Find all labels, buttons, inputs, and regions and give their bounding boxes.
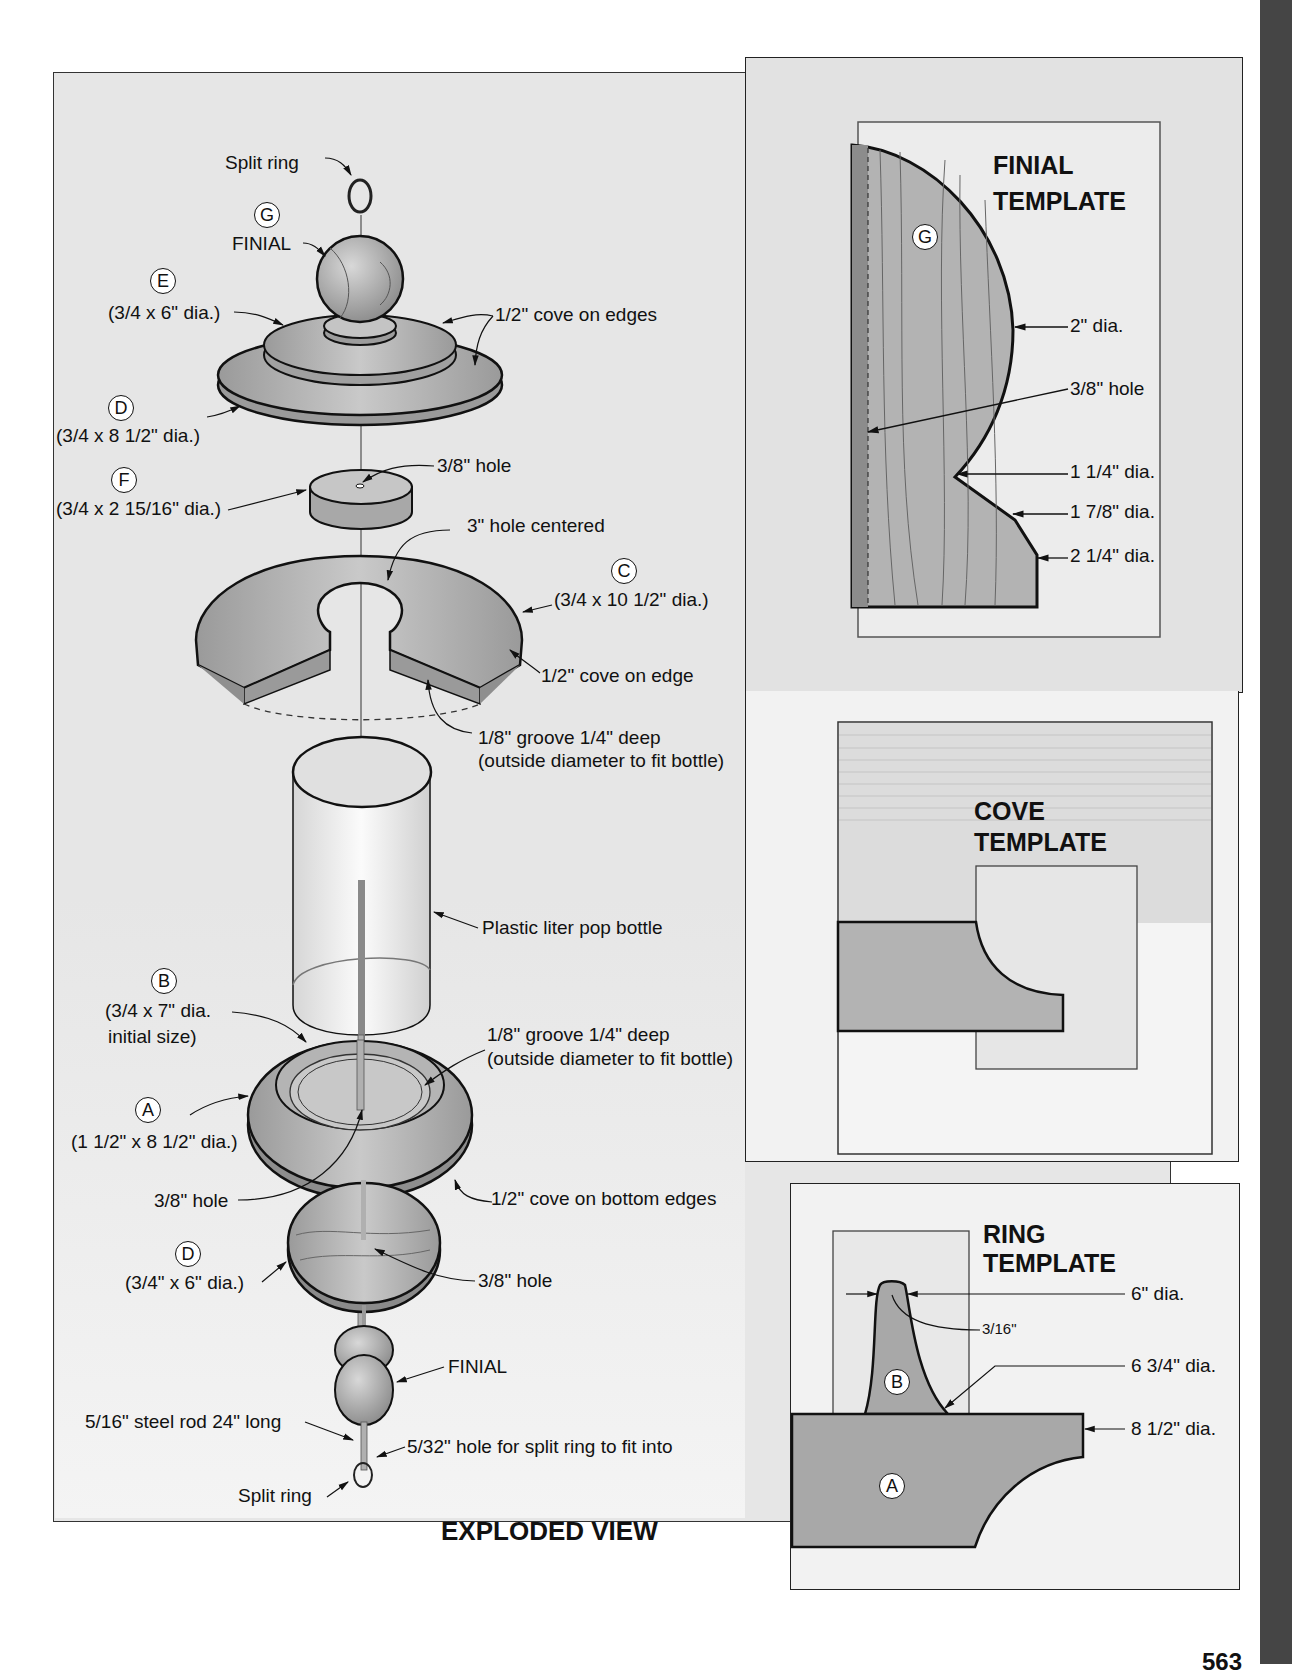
finial-dim-2-dia: 2" dia.: [1070, 315, 1123, 337]
label-bottle: Plastic liter pop bottle: [482, 917, 663, 939]
label-split-ring-top: Split ring: [225, 152, 299, 174]
exploded-view-title: EXPLODED VIEW: [441, 1517, 658, 1546]
ring-dim-6-3-4: 6 3/4" dia.: [1131, 1355, 1216, 1377]
label-hole-f: 3/8" hole: [437, 455, 511, 477]
label-part-a-dims: (1 1/2" x 8 1/2" dia.): [71, 1131, 238, 1153]
label-part-b-dims-1: (3/4 x 7" dia.: [105, 1000, 211, 1022]
page-number: 563: [1202, 1648, 1242, 1674]
label-part-b-dims-2: initial size): [108, 1026, 197, 1048]
finial-dim-hole: 3/8" hole: [1070, 378, 1144, 400]
finial-dim-1-7-8: 1 7/8" dia.: [1070, 501, 1155, 523]
label-groove-top-2: (outside diameter to fit bottle): [478, 750, 724, 772]
ring-part-a-badge: A: [879, 1473, 905, 1499]
label-part-e-dims: (3/4 x 6" dia.): [108, 302, 220, 324]
finial-template-part-badge: G: [912, 224, 938, 250]
finial-dim-2-1-4: 2 1/4" dia.: [1070, 545, 1155, 567]
label-finial-top: FINIAL: [232, 233, 291, 255]
ring-dim-3-16: 3/16": [982, 1320, 1017, 1337]
part-d-top-badge: D: [108, 395, 134, 421]
label-part-c-dims: (3/4 x 10 1/2" dia.): [554, 589, 709, 611]
label-cove-on-edge: 1/2" cove on edge: [541, 665, 694, 687]
cove-template-title-1: COVE: [974, 798, 1045, 826]
label-part-d-bottom-dims: (3/4" x 6" dia.): [125, 1272, 244, 1294]
part-c-badge: C: [611, 558, 637, 584]
cove-template-title-2: TEMPLATE: [974, 829, 1107, 857]
finial-dim-1-1-4: 1 1/4" dia.: [1070, 461, 1155, 483]
label-groove-bottom-2: (outside diameter to fit bottle): [487, 1048, 733, 1070]
ring-dim-6-dia: 6" dia.: [1131, 1283, 1184, 1305]
label-split-ring-bottom: Split ring: [238, 1485, 312, 1507]
part-g-badge: G: [254, 202, 280, 228]
part-a-badge: A: [135, 1097, 161, 1123]
part-f-badge: F: [111, 467, 137, 493]
label-groove-bottom-1: 1/8" groove 1/4" deep: [487, 1024, 670, 1046]
label-groove-top-1: 1/8" groove 1/4" deep: [478, 727, 661, 749]
label-cove-bottom-edges: 1/2" cove on bottom edges: [491, 1188, 716, 1210]
ring-template-title-2: TEMPLATE: [983, 1250, 1116, 1278]
part-b-badge: B: [151, 968, 177, 994]
ring-part-b-badge: B: [884, 1369, 910, 1395]
finial-template-title-1: FINIAL: [993, 152, 1074, 180]
label-part-f-dims: (3/4 x 2 15/16" dia.): [56, 498, 221, 520]
label-finial-bottom: FINIAL: [448, 1356, 507, 1378]
part-e-badge: E: [150, 268, 176, 294]
label-steel-rod: 5/16" steel rod 24" long: [85, 1411, 281, 1433]
label-split-ring-hole: 5/32" hole for split ring to fit into: [407, 1436, 673, 1458]
ring-template-title-1: RING: [983, 1221, 1046, 1249]
finial-template-title-2: TEMPLATE: [993, 188, 1126, 216]
ring-dim-8-1-2: 8 1/2" dia.: [1131, 1418, 1216, 1440]
label-hole-centered: 3" hole centered: [467, 515, 605, 537]
label-hole-d-bottom: 3/8" hole: [478, 1270, 552, 1292]
label-cove-on-edges: 1/2" cove on edges: [495, 304, 657, 326]
label-hole-a: 3/8" hole: [154, 1190, 228, 1212]
label-part-d-top-dims: (3/4 x 8 1/2" dia.): [56, 425, 200, 447]
part-d-bottom-badge: D: [175, 1241, 201, 1267]
